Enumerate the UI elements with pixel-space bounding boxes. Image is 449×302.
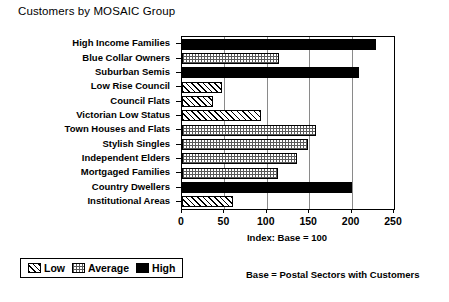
x-axis-tick xyxy=(181,209,182,213)
x-axis-tick xyxy=(351,209,352,213)
bar xyxy=(182,110,261,121)
bar xyxy=(182,125,316,136)
x-axis-tick xyxy=(393,209,394,213)
y-axis-labels: High Income FamiliesBlue Collar OwnersSu… xyxy=(0,36,176,208)
x-axis-tick xyxy=(223,209,224,213)
y-axis-label: Blue Collar Owners xyxy=(82,52,170,63)
chart-footnote: Base = Postal Sectors with Customers xyxy=(246,269,419,280)
x-axis-tick-label: 100 xyxy=(257,215,275,227)
bar xyxy=(182,153,297,164)
y-axis-label: Independent Elders xyxy=(82,152,170,163)
x-axis-tick xyxy=(308,209,309,213)
x-axis-tick-label: 0 xyxy=(178,215,184,227)
chart-title: Customers by MOSAIC Group xyxy=(18,5,175,17)
y-axis-label: Mortgaged Families xyxy=(81,166,170,177)
legend-swatch-high-icon xyxy=(136,263,149,273)
x-axis-tick-label: 250 xyxy=(384,215,402,227)
x-axis-tick xyxy=(266,209,267,213)
legend-swatch-average-icon xyxy=(72,263,85,273)
y-axis-label: Victorian Low Status xyxy=(76,109,170,120)
bar xyxy=(182,67,359,78)
chart-container: Customers by MOSAIC Group High Income Fa… xyxy=(0,0,449,302)
x-axis-tick-label: 50 xyxy=(218,215,230,227)
bar xyxy=(182,139,308,150)
legend-label: Average xyxy=(88,262,129,274)
y-axis-label: Town Houses and Flats xyxy=(65,123,170,134)
bar xyxy=(182,196,233,207)
legend-entry: Average xyxy=(72,262,129,274)
legend-entry: High xyxy=(136,262,175,274)
chart-legend: LowAverageHigh xyxy=(20,258,183,278)
legend-label: High xyxy=(152,262,175,274)
bar xyxy=(182,182,352,193)
bar xyxy=(182,168,278,179)
legend-label: Low xyxy=(44,262,65,274)
y-axis-label: Country Dwellers xyxy=(92,181,170,192)
y-axis-label: Suburban Semis xyxy=(95,66,170,77)
plot-area xyxy=(181,36,395,210)
legend-entry: Low xyxy=(28,262,65,274)
x-axis-title: Index: Base = 100 xyxy=(181,232,393,243)
y-axis-label: Council Flats xyxy=(110,95,170,106)
y-axis-label: High Income Families xyxy=(72,37,170,48)
bars-layer xyxy=(182,37,394,209)
bar xyxy=(182,96,213,107)
bar xyxy=(182,39,376,50)
legend-swatch-low-icon xyxy=(28,263,41,273)
x-axis-tick-label: 200 xyxy=(342,215,360,227)
y-axis-label: Stylish Singles xyxy=(102,138,170,149)
bar xyxy=(182,82,222,93)
y-axis-label: Low Rise Council xyxy=(91,80,170,91)
y-axis-label: Institutional Areas xyxy=(87,195,170,206)
x-axis-tick-label: 150 xyxy=(299,215,317,227)
bar xyxy=(182,53,279,64)
